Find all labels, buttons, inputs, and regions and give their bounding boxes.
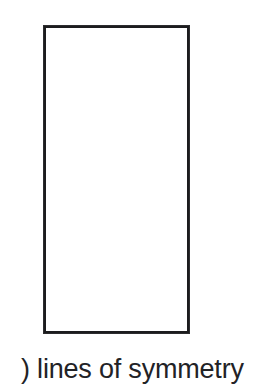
worksheet-page: ) lines of symmetry [0, 0, 260, 390]
figure-area [0, 0, 260, 345]
caption-text: ) lines of symmetry [21, 352, 260, 390]
rectangle-shape [43, 25, 190, 334]
